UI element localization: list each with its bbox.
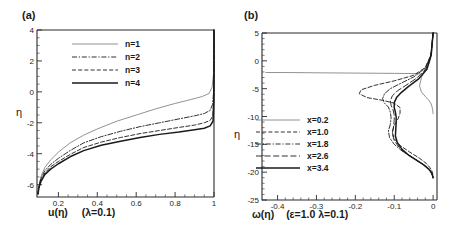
curve-x-1-0 xyxy=(359,33,433,178)
curve-x-0-2-tail xyxy=(266,73,420,74)
legend-label-n-4: n=4 xyxy=(125,78,140,88)
panel-b-x-axis-main: ω(η) xyxy=(252,208,274,220)
panel-b-x-axis-params: (ε=1.0 λ=0.1) xyxy=(286,208,348,220)
legend-label-n-3: n=3 xyxy=(125,65,140,75)
curve-x-1-8 xyxy=(383,33,434,178)
panel-b-y-axis-title: η xyxy=(234,128,240,140)
panel-b-plot: -0.4-0.3-0.2-0.1050-5-10-15-20-25x=0.2x=… xyxy=(228,0,449,242)
svg-text:-0.1: -0.1 xyxy=(387,202,401,211)
panel-a-x-axis-main: u(η) xyxy=(48,206,68,218)
panel-a-y-axis-title: η xyxy=(16,106,22,118)
svg-text:-25: -25 xyxy=(247,196,259,205)
svg-text:-5: -5 xyxy=(252,85,260,94)
panel-b: (b) -0.4-0.3-0.2-0.1050-5-10-15-20-25x=0… xyxy=(228,0,449,242)
svg-text:5: 5 xyxy=(255,29,260,38)
legend-label-x-3-4: x=3.4 xyxy=(307,163,329,173)
svg-text:0: 0 xyxy=(30,88,35,97)
panel-a: (a) 0.20.40.60.81420-2-4-6n=1n=2n=3n=4 η… xyxy=(0,0,228,242)
svg-text:0: 0 xyxy=(255,57,260,66)
svg-text:2: 2 xyxy=(30,57,35,66)
svg-text:-15: -15 xyxy=(247,140,259,149)
legend-label-x-1-0: x=1.0 xyxy=(307,127,329,137)
legend-label-n-2: n=2 xyxy=(125,52,140,62)
svg-text:4: 4 xyxy=(30,26,35,35)
svg-text:-0.2: -0.2 xyxy=(348,202,362,211)
panel-a-x-axis-title: u(η) (λ=0.1) xyxy=(48,206,115,218)
svg-text:0.6: 0.6 xyxy=(131,199,143,208)
legend-label-x-1-8: x=1.8 xyxy=(307,139,329,149)
svg-text:1: 1 xyxy=(212,199,217,208)
svg-text:0.8: 0.8 xyxy=(170,199,182,208)
legend-label-n-1: n=1 xyxy=(125,39,140,49)
legend-label-x-0-2: x=0.2 xyxy=(307,115,329,125)
svg-text:-20: -20 xyxy=(247,168,259,177)
panel-a-x-axis-params: (λ=0.1) xyxy=(82,206,116,218)
curve-x-3-4 xyxy=(394,33,433,178)
figure-container: (a) 0.20.40.60.81420-2-4-6n=1n=2n=3n=4 η… xyxy=(0,0,449,242)
panel-b-x-axis-title: ω(η) (ε=1.0 λ=0.1) xyxy=(252,208,348,220)
legend-label-x-2-6: x=2.6 xyxy=(307,151,329,161)
svg-text:-4: -4 xyxy=(27,150,35,159)
svg-text:0: 0 xyxy=(431,202,436,211)
svg-text:-2: -2 xyxy=(27,119,35,128)
svg-text:-6: -6 xyxy=(27,181,35,190)
